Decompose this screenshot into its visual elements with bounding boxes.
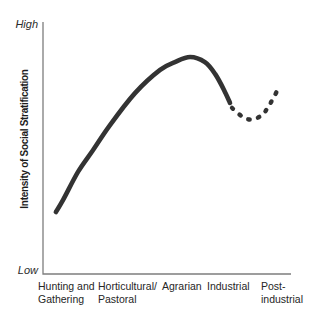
y-axis-high-label: High [0, 18, 38, 31]
chart-svg [0, 0, 309, 317]
x-axis-label-industrial: Industrial [207, 280, 250, 293]
x-axis-label-line: Agrarian [162, 280, 202, 293]
x-axis-label-line: Hunting and [38, 280, 95, 293]
x-axis-label-line: Horticultural/ [98, 280, 157, 293]
x-axis-label-line: Gathering [38, 293, 95, 306]
x-axis-label-agrarian: Agrarian [162, 280, 202, 293]
x-axis-label-hunting-gathering: Hunting and Gathering [38, 280, 95, 306]
y-axis-title: Intensity of Social Stratification [19, 69, 30, 208]
solid-curve [56, 57, 230, 212]
axis-lines [43, 22, 291, 274]
x-axis-label-post-industrial: Post- industrial [261, 280, 303, 306]
dashed-curve [232, 91, 277, 120]
x-axis-label-line: industrial [261, 293, 303, 306]
x-axis-label-line: Industrial [207, 280, 250, 293]
x-axis-label-line: Post- [261, 280, 303, 293]
x-axis-label-line: Pastoral [98, 293, 157, 306]
stratification-figure: High Low Intensity of Social Stratificat… [0, 0, 309, 317]
x-axis-label-horticultural-pastoral: Horticultural/ Pastoral [98, 280, 157, 306]
y-axis-low-label: Low [0, 264, 38, 277]
